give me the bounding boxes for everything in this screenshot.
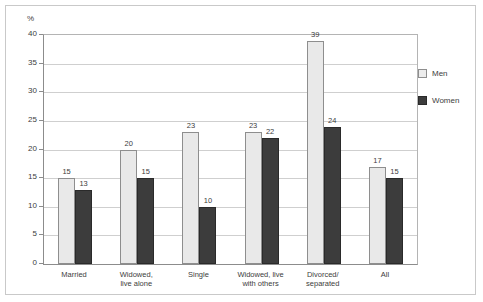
y-tick-label: 25	[13, 115, 37, 124]
bar-value-label: 23	[179, 121, 203, 130]
bar-value-label: 10	[196, 196, 220, 205]
legend-label: Men	[432, 69, 448, 78]
legend-label: Women	[432, 96, 459, 105]
gridline	[44, 121, 417, 122]
gridline	[44, 64, 417, 65]
gridline	[44, 92, 417, 93]
y-tick-label: 15	[13, 172, 37, 181]
gridline	[44, 178, 417, 179]
x-category-label-line: separated	[280, 279, 366, 288]
plot-area: 152023233917131510222415	[43, 34, 418, 265]
x-category-label: All	[342, 270, 428, 279]
legend-item-men[interactable]: Men	[418, 68, 476, 78]
gridline	[44, 150, 417, 151]
bar-value-label: 15	[134, 167, 158, 176]
bar-value-label: 17	[365, 156, 389, 165]
bar	[58, 178, 75, 264]
bar-value-label: 15	[382, 167, 406, 176]
y-tick-label: 30	[13, 86, 37, 95]
bar-value-label: 20	[117, 139, 141, 148]
gridline	[44, 207, 417, 208]
bar-value-label: 24	[320, 116, 344, 125]
bar	[324, 127, 341, 264]
y-tick-label: 35	[13, 58, 37, 67]
y-tick-label: 0	[13, 258, 37, 267]
bar-value-label: 13	[72, 179, 96, 188]
chart-legend: MenWomen	[418, 68, 476, 122]
legend-swatch-icon	[418, 69, 427, 78]
legend-item-women[interactable]: Women	[418, 95, 476, 105]
bar	[199, 207, 216, 264]
x-category-label-line: live alone	[93, 279, 179, 288]
y-tick-label: 20	[13, 144, 37, 153]
bar	[137, 178, 154, 264]
bar-value-label: 39	[303, 30, 327, 39]
bar	[75, 190, 92, 264]
y-axis-unit-label: %	[27, 14, 34, 23]
bar-value-label: 22	[258, 127, 282, 136]
legend-swatch-icon	[418, 96, 427, 105]
y-tick-label: 40	[13, 29, 37, 38]
bar	[262, 138, 279, 264]
bar	[307, 41, 324, 264]
gridline	[44, 235, 417, 236]
y-tick-label: 5	[13, 229, 37, 238]
bar	[245, 132, 262, 264]
y-tick-label: 10	[13, 201, 37, 210]
chart-figure-frame: % 0510152025303540 152023233917131510222…	[5, 5, 476, 295]
bar	[369, 167, 386, 264]
bar-value-label: 15	[55, 167, 79, 176]
x-category-label-line: All	[342, 270, 428, 279]
bar	[386, 178, 403, 264]
